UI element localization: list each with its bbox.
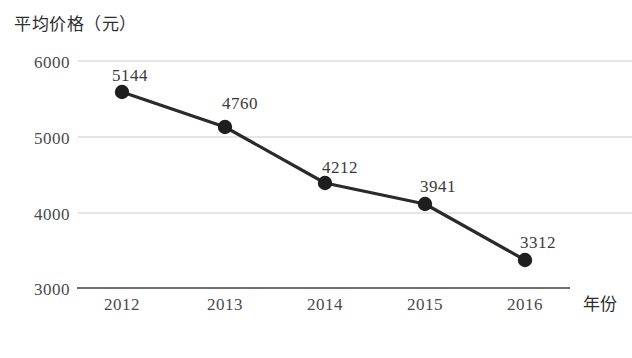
- data-point-marker: [518, 253, 532, 267]
- data-point-marker: [318, 176, 332, 190]
- x-tick-label: 2012: [82, 296, 162, 313]
- x-tick-label: 2016: [485, 296, 565, 313]
- x-tick-label: 2013: [185, 296, 265, 313]
- data-point-label: 4760: [195, 95, 285, 112]
- x-tick-label: 2015: [385, 296, 465, 313]
- x-axis-title: 年份: [583, 296, 617, 313]
- data-point-marker: [418, 197, 432, 211]
- data-point-marker: [218, 120, 232, 134]
- data-point-label: 5144: [85, 67, 175, 84]
- x-tick-label: 2014: [285, 296, 365, 313]
- data-point-marker: [115, 85, 129, 99]
- data-point-label: 3941: [393, 178, 483, 195]
- data-point-label: 3312: [493, 234, 583, 251]
- data-point-label: 4212: [295, 159, 385, 176]
- line-chart: 平均价格（元） 6000 5000 4000 3000 5144 4760 42…: [0, 0, 632, 358]
